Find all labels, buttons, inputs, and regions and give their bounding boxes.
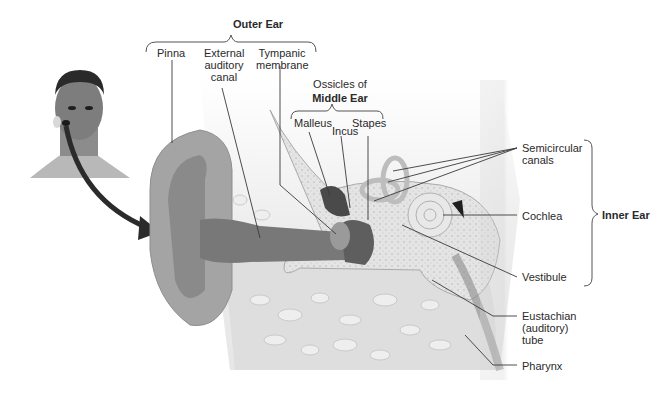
head-figure — [30, 70, 130, 178]
inner-ear-heading: Inner Ear — [602, 209, 650, 221]
cochlea-label: Cochlea — [522, 210, 562, 222]
ossicles-heading: Ossicles of Middle Ear — [305, 78, 375, 104]
malleus-label: Malleus — [294, 117, 332, 129]
outer-ear-heading: Outer Ear — [233, 18, 283, 30]
stapes-label: Stapes — [352, 117, 386, 129]
pharynx-label: Pharynx — [522, 360, 562, 372]
eustachian-tube-label: Eustachian (auditory) tube — [522, 310, 576, 346]
external-auditory-canal-label: External auditory canal — [204, 47, 244, 83]
vestibule-label: Vestibule — [522, 271, 567, 283]
semicircular-canals-label: Semicircular canals — [522, 142, 583, 166]
pinna-label: Pinna — [157, 47, 185, 59]
tympanic-membrane-label: Tympanic membrane — [256, 47, 308, 71]
